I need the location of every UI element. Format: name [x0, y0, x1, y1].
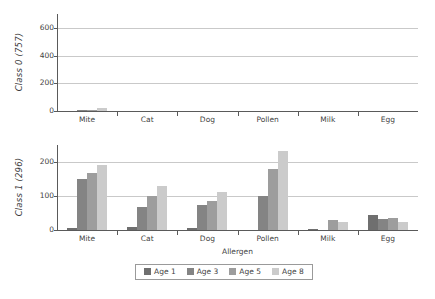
allergen-sensitization-figure: Class 0 (757) 0200400600 MiteCatDogPolle… — [0, 0, 435, 299]
bar-milk-age-8 — [338, 222, 348, 230]
x-axis-title: Allergen — [57, 247, 418, 256]
y-axis-title-bottom: Class 1 (296) — [14, 147, 24, 227]
y-tick-mark — [54, 28, 57, 29]
bar-group-mite — [57, 14, 117, 111]
bar-group-mite — [57, 145, 117, 230]
bar-group-milk — [298, 145, 358, 230]
bar-pollen-age-8 — [278, 151, 288, 230]
y-tick-label: 400 — [40, 52, 54, 60]
x-tick-label-cat: Cat — [117, 235, 177, 243]
x-tick-label-dog: Dog — [177, 116, 237, 124]
bar-group-pollen — [238, 145, 298, 230]
y-tick-mark — [54, 83, 57, 84]
y-axis-line-bottom — [57, 145, 58, 231]
y-tick-label: 600 — [40, 24, 54, 32]
legend-label: Age 8 — [282, 268, 304, 276]
plot-area-top: 0200400600 — [57, 14, 418, 112]
y-tick-label: 100 — [40, 192, 54, 200]
x-tick-label-pollen: Pollen — [238, 235, 298, 243]
x-tick-label-dog: Dog — [177, 235, 237, 243]
bar-group-milk — [298, 14, 358, 111]
plot-area-bottom: 0100200 — [57, 145, 418, 231]
legend-swatch-icon — [144, 268, 151, 275]
bar-group-egg — [358, 145, 418, 230]
bar-milk-age-5 — [328, 220, 338, 230]
bar-group-pollen — [238, 14, 298, 111]
x-tick-label-pollen: Pollen — [238, 116, 298, 124]
x-tick-label-egg: Egg — [358, 116, 418, 124]
bar-group-dog — [177, 145, 237, 230]
y-tick-mark — [54, 196, 57, 197]
bar-pollen-age-3 — [258, 196, 268, 230]
bar-dog-age-8 — [217, 192, 227, 230]
bar-pollen-age-5 — [268, 169, 278, 230]
legend-item-age-5: Age 5 — [229, 268, 261, 276]
chart-legend: Age 1Age 3Age 5Age 8 — [135, 264, 313, 280]
legend-swatch-icon — [187, 268, 194, 275]
bar-group-dog — [177, 14, 237, 111]
bar-egg-age-3 — [378, 219, 388, 230]
x-tick-label-cat: Cat — [117, 116, 177, 124]
bar-mite-age-8 — [97, 165, 107, 230]
bar-group-egg — [358, 14, 418, 111]
x-axis-labels-bottom: MiteCatDogPollenMilkEgg — [57, 235, 418, 243]
y-axis-title-top: Class 0 (757) — [14, 22, 24, 102]
legend-item-age-1: Age 1 — [144, 268, 176, 276]
y-tick-mark — [54, 56, 57, 57]
bar-mite-age-5 — [87, 173, 97, 230]
bar-mite-age-3 — [77, 179, 87, 230]
chart-panel-class-0: Class 0 (757) 0200400600 MiteCatDogPolle… — [0, 0, 435, 132]
bar-egg-age-1 — [368, 215, 378, 230]
y-tick-mark — [54, 162, 57, 163]
bar-group-cat — [117, 14, 177, 111]
bar-egg-age-5 — [388, 218, 398, 230]
x-tick-label-milk: Milk — [298, 235, 358, 243]
bar-dog-age-3 — [197, 205, 207, 231]
x-axis-labels-top: MiteCatDogPollenMilkEgg — [57, 116, 418, 124]
x-tick-label-mite: Mite — [57, 235, 117, 243]
bar-dog-age-5 — [207, 201, 217, 230]
y-axis-line-top — [57, 14, 58, 112]
bar-cat-age-8 — [157, 186, 167, 230]
x-tick-label-egg: Egg — [358, 235, 418, 243]
chart-panel-class-1: Class 1 (296) 0100200 MiteCatDogPollenMi… — [0, 140, 435, 260]
bar-egg-age-8 — [398, 222, 408, 231]
legend-label: Age 5 — [239, 268, 261, 276]
legend-item-age-8: Age 8 — [272, 268, 304, 276]
bar-cat-age-3 — [137, 207, 147, 230]
legend-swatch-icon — [229, 268, 236, 275]
legend-label: Age 3 — [197, 268, 219, 276]
x-tick-label-mite: Mite — [57, 116, 117, 124]
bar-cat-age-5 — [147, 196, 157, 230]
y-tick-mark — [54, 111, 57, 112]
legend-label: Age 1 — [154, 268, 176, 276]
bar-groups-bottom — [57, 145, 418, 230]
legend-swatch-icon — [272, 268, 279, 275]
y-tick-label: 200 — [40, 158, 54, 166]
y-tick-label: 200 — [40, 80, 54, 88]
bar-groups-top — [57, 14, 418, 111]
bar-group-cat — [117, 145, 177, 230]
legend-item-age-3: Age 3 — [187, 268, 219, 276]
x-tick-label-milk: Milk — [298, 116, 358, 124]
y-tick-mark — [54, 230, 57, 231]
